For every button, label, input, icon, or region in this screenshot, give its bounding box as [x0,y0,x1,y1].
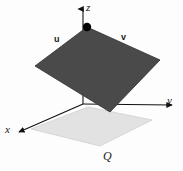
y-axis-line [83,104,172,105]
tangency-point-dot [83,23,91,31]
vector-label-u: u [54,35,60,44]
axis-label-y: y [167,95,172,106]
region-label-q: Q [103,150,112,162]
region-q-surface [31,107,152,146]
figure-canvas: z y x u v Q [0,0,183,171]
axis-label-z: z [86,2,90,13]
axis-label-x: x [5,124,10,135]
vector-label-v: v [121,33,126,42]
diagram-svg [0,0,183,171]
